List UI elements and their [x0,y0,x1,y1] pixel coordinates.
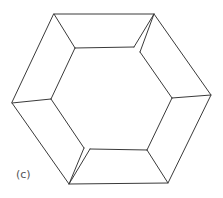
connector-edge [54,14,75,48]
inner-edge [147,98,172,150]
outer-hexagon-outline [12,14,211,184]
connector-edge [69,148,84,184]
inner-edge [51,48,75,99]
connector-edge [172,95,211,98]
inner-edge [75,47,134,48]
inner-edge [51,99,84,148]
hexagonal-frame-diagram [0,0,223,198]
connector-edge [12,99,51,103]
inner-edge [90,149,147,150]
connector-edge [69,149,90,184]
inner-edges [51,47,172,150]
connector-edge [147,150,168,183]
outer-hexagon [12,14,211,184]
figure-label: (c) [16,168,31,181]
inner-edge [140,52,172,98]
